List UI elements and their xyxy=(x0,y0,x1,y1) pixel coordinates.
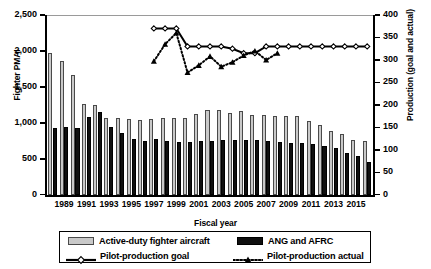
plot-area: 05001,0001,5002,0002,500 050100150200250… xyxy=(45,15,375,197)
y-tick-right xyxy=(375,104,380,105)
line-path-actual xyxy=(154,33,278,73)
y-axis-left-title: Fighter PMAI xyxy=(12,20,22,130)
y-tick-label-left: 2,000 xyxy=(14,46,37,55)
legend-label-active-duty: Active-duty fighter aircraft xyxy=(99,236,210,246)
x-axis-tick-labels: 1989199119931995199719992001200320052007… xyxy=(45,199,375,213)
y-tick-label-right: 400 xyxy=(383,10,398,19)
marker-goal xyxy=(331,44,336,49)
marker-goal xyxy=(353,44,358,49)
y-tick-label-right: 350 xyxy=(383,32,398,41)
y-tick-label-right: 50 xyxy=(383,167,393,176)
legend-label-goal: Pilot-production goal xyxy=(100,251,189,261)
marker-goal xyxy=(196,44,201,49)
legend-row-2: Pilot-production goal Pilot-production a… xyxy=(60,248,370,264)
y-tick-label-right: 300 xyxy=(383,55,398,64)
y-tick-right xyxy=(375,59,380,60)
legend-item-ang-afrc: ANG and AFRC xyxy=(237,233,333,249)
y-tick-label-right: 100 xyxy=(383,145,398,154)
legend-item-actual: Pilot-production actual xyxy=(233,248,364,264)
chart-legend: Active-duty fighter aircraft ANG and AFR… xyxy=(59,231,371,263)
y-tick-right xyxy=(375,82,380,83)
y-tick-label-right: 150 xyxy=(383,122,398,131)
y-tick-label-left: 0 xyxy=(32,190,37,199)
marker-goal xyxy=(162,26,167,31)
marker-goal xyxy=(230,46,235,51)
y-tick-right xyxy=(375,127,380,128)
y-axis-right-title: Production (goal and actual) xyxy=(405,0,415,135)
legend-item-active-duty: Active-duty fighter aircraft xyxy=(68,233,210,249)
marker-goal xyxy=(275,44,280,49)
y-tick-label-right: 0 xyxy=(383,190,388,199)
legend-item-goal: Pilot-production goal xyxy=(66,248,189,264)
legend-swatch-goal-line-icon xyxy=(66,251,96,261)
chart-figure: Fighter PMAI Production (goal and actual… xyxy=(0,0,431,269)
y-tick-right xyxy=(375,149,380,150)
y-tick-right xyxy=(375,194,380,195)
marker-goal xyxy=(286,44,291,49)
y-tick-right xyxy=(375,37,380,38)
marker-goal xyxy=(219,44,224,49)
marker-goal xyxy=(342,44,347,49)
marker-goal xyxy=(365,44,370,49)
legend-label-actual: Pilot-production actual xyxy=(267,251,364,261)
marker-goal xyxy=(308,44,313,49)
line-path-goal xyxy=(154,28,367,53)
y-tick-label-left: 1,000 xyxy=(14,118,37,127)
legend-label-ang-afrc: ANG and AFRC xyxy=(268,236,333,246)
y-tick-right xyxy=(375,172,380,173)
marker-goal xyxy=(297,44,302,49)
legend-row-1: Active-duty fighter aircraft ANG and AFR… xyxy=(60,233,370,249)
legend-swatch-active-duty-icon xyxy=(68,237,94,245)
x-tick-label: 2015 xyxy=(341,199,371,209)
y-tick-right xyxy=(375,14,380,15)
legend-swatch-ang-afrc-icon xyxy=(237,237,263,245)
legend-swatch-actual-line-icon xyxy=(233,251,263,261)
marker-actual xyxy=(207,53,213,59)
marker-actual xyxy=(274,50,280,56)
marker-goal xyxy=(207,44,212,49)
y-tick-label-left: 2,500 xyxy=(14,10,37,19)
x-axis-title: Fiscal year xyxy=(0,218,431,228)
line-series-container xyxy=(45,15,375,197)
y-tick-label-left: 500 xyxy=(22,154,37,163)
marker-goal xyxy=(151,26,156,31)
y-tick-label-right: 250 xyxy=(383,77,398,86)
marker-goal xyxy=(320,44,325,49)
y-tick-label-left: 1,500 xyxy=(14,82,37,91)
y-tick-label-right: 200 xyxy=(383,100,398,109)
